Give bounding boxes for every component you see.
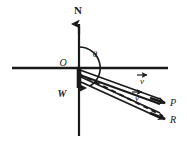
vector-lower-label: v — [135, 93, 139, 103]
point-r-label: R — [169, 114, 176, 125]
vector-diagram-canvas: N O θ W P R v v — [0, 0, 187, 142]
vector-upper-label: v — [140, 76, 144, 86]
angle-theta-label: θ — [93, 49, 98, 59]
vector-diagram-figure: N O θ W P R v v — [0, 0, 187, 142]
west-axis-label: W — [58, 88, 68, 99]
north-axis-label: N — [74, 4, 82, 16]
point-p-label: P — [169, 97, 176, 108]
origin-label: O — [59, 57, 66, 68]
